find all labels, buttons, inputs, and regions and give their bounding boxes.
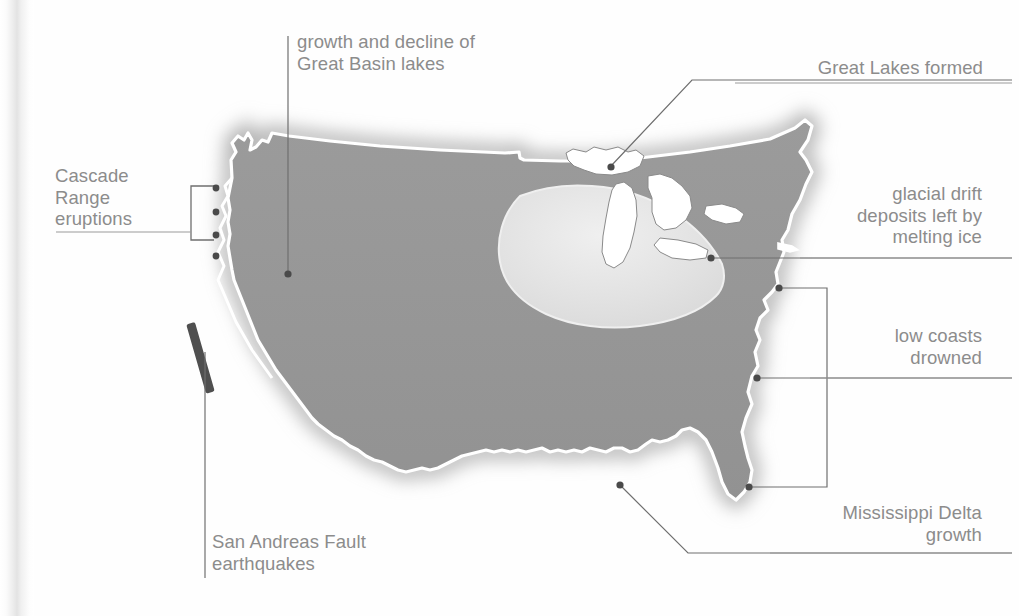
callout-label-great-basin-lakes: growth and decline of Great Basin lakes [297,31,527,74]
low-coasts-callout-graphics [745,284,1012,490]
callout-label-san-andreas: San Andreas Fault earthquakes [212,531,462,574]
callout-label-cascade: Cascade Range eruptions [55,165,205,230]
volcano-dot [213,232,220,239]
volcano-dot [213,209,220,216]
callout-label-glacial-drift: glacial drift deposits left by melting i… [800,183,982,248]
figure-canvas: Cascade Range eruptions growth and decli… [0,0,1019,616]
callout-label-mississippi-delta: Mississippi Delta growth [770,502,982,545]
volcano-dot [213,185,220,192]
volcano-dot [213,253,220,260]
us-landmass [228,120,812,500]
callout-label-low-coasts: low coasts drowned [810,325,982,368]
san-andreas-fault-bar [186,322,214,394]
callout-label-great-lakes: Great Lakes formed [735,57,983,79]
